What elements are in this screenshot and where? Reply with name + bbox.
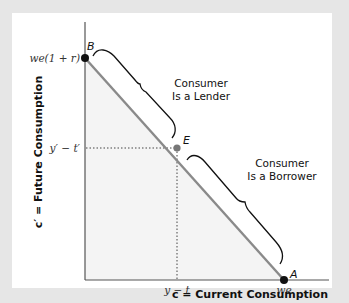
lender-annotation-line1: Consumer: [174, 77, 228, 89]
budget-constraint-diagram: B E A we(1 + r) y′ − t′ y − t we c = Cur…: [0, 0, 349, 303]
y-axis-title: c′ = Future Consumption: [32, 76, 45, 229]
point-A-marker: [280, 276, 288, 284]
point-E-label: E: [183, 134, 190, 147]
point-E-marker: [173, 144, 180, 151]
borrower-annotation-line2: Is a Borrower: [247, 170, 317, 182]
point-B-label: B: [87, 40, 95, 53]
y-tick-y-prime-minus-t-prime: y′ − t′: [49, 142, 81, 154]
borrower-annotation-line1: Consumer: [255, 157, 309, 169]
point-B-marker: [81, 54, 89, 62]
lender-annotation-line2: Is a Lender: [172, 90, 231, 102]
y-tick-we-1-plus-r: we(1 + r): [29, 52, 80, 64]
x-axis-title: c = Current Consumption: [172, 288, 328, 301]
point-A-label: A: [289, 268, 298, 281]
